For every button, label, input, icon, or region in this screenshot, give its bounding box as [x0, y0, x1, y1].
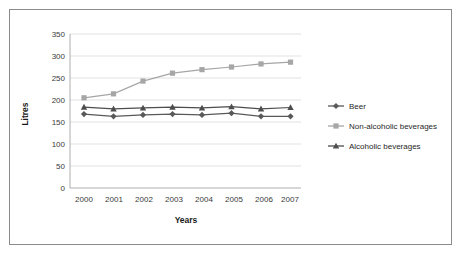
x-tick-label: 2005 — [225, 195, 243, 204]
x-tick-label: 2006 — [255, 195, 273, 204]
square-marker-icon — [140, 78, 145, 83]
x-axis-title: Years — [175, 215, 198, 225]
square-marker-icon — [199, 67, 204, 72]
square-marker-icon — [229, 64, 234, 69]
series-layer — [81, 60, 294, 120]
diamond-marker-icon — [199, 112, 205, 118]
legend-item-non-alcoholic-beverages[interactable]: Non-alcoholic beverages — [328, 122, 437, 131]
chart-frame: 350 300 250 200 150 100 50 0 2000 2001 2… — [9, 9, 452, 245]
y-axis-title: Litres — [20, 102, 30, 125]
x-tick-labels: 2000 2001 2002 2003 2004 2005 2006 2007 — [75, 195, 299, 204]
diamond-marker-icon — [140, 112, 146, 118]
y-tick-labels: 350 300 250 200 150 100 50 0 — [52, 30, 66, 193]
y-tick-label: 50 — [56, 162, 65, 171]
legend-label: Non-alcoholic beverages — [349, 122, 437, 131]
x-tick-label: 2000 — [75, 195, 93, 204]
x-tick-label: 2002 — [135, 195, 153, 204]
legend-item-beer[interactable]: Beer — [328, 102, 366, 111]
x-tick-label: 2004 — [195, 195, 213, 204]
legend-label: Alcoholic beverages — [349, 142, 421, 151]
legend-label: Beer — [349, 102, 366, 111]
square-marker-icon — [258, 61, 263, 66]
series-beer — [81, 110, 294, 119]
series-alcoholic-beverages — [81, 103, 294, 111]
legend-item-alcoholic-beverages[interactable]: Alcoholic beverages — [328, 142, 421, 151]
gridlines — [70, 34, 301, 166]
x-tick-label: 2007 — [281, 195, 299, 204]
y-tick-label: 200 — [52, 96, 66, 105]
diamond-marker-icon — [228, 110, 234, 116]
diamond-marker-icon — [81, 111, 87, 117]
square-marker-icon — [81, 95, 86, 100]
line-chart: 350 300 250 200 150 100 50 0 2000 2001 2… — [10, 10, 453, 246]
y-tick-label: 350 — [52, 30, 66, 39]
diamond-marker-icon — [110, 113, 116, 119]
series-non-alcoholic-beverages — [81, 60, 293, 101]
y-tick-label: 250 — [52, 74, 66, 83]
diamond-marker-icon — [333, 103, 339, 109]
y-tick-label: 100 — [52, 140, 66, 149]
y-tick-label: 0 — [61, 184, 66, 193]
square-marker-icon — [288, 60, 293, 65]
chart-legend: BeerNon-alcoholic beveragesAlcoholic bev… — [328, 102, 437, 151]
y-tick-label: 300 — [52, 52, 66, 61]
x-tick-label: 2001 — [105, 195, 123, 204]
diamond-marker-icon — [287, 113, 293, 119]
y-tick-label: 150 — [52, 118, 66, 127]
square-marker-icon — [111, 91, 116, 96]
x-tick-label: 2003 — [165, 195, 183, 204]
square-marker-icon — [333, 123, 338, 128]
diamond-marker-icon — [258, 113, 264, 119]
square-marker-icon — [170, 71, 175, 76]
diamond-marker-icon — [169, 111, 175, 117]
